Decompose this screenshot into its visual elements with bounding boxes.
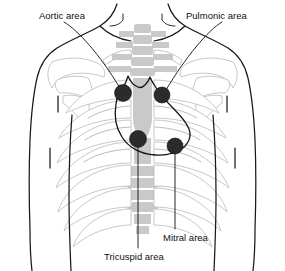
mitral-area-label: Mitral area (163, 232, 209, 243)
anatomy-illustration: Aortic area Pulmonic area Mitral area Tr… (0, 0, 285, 271)
aortic-area-label: Aortic area (39, 10, 86, 21)
tricuspid-area-label: Tricuspid area (104, 251, 165, 262)
tricuspid-area-dot[interactable] (130, 131, 147, 148)
aortic-area-dot[interactable] (115, 85, 132, 102)
cardiac-auscultation-diagram: Aortic area Pulmonic area Mitral area Tr… (0, 0, 285, 271)
pulmonic-area-label: Pulmonic area (186, 10, 247, 21)
pulmonic-area-dot[interactable] (154, 87, 170, 103)
spine-upper (108, 24, 177, 76)
mitral-area-dot[interactable] (167, 138, 183, 154)
